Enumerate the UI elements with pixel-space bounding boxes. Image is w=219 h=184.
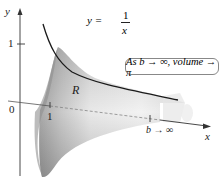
limit-label: b → ∞ [146, 125, 173, 135]
x-tick-label: 1 [47, 111, 53, 122]
y-axis-label: y [5, 6, 10, 17]
gabriels-horn-diagram: y 1 0 1 x R b → ∞ y = 1 x As b → ∞, volu… [0, 0, 219, 184]
origin-label: 0 [9, 104, 15, 115]
y-tick-label: 1 [8, 38, 14, 49]
horn-figure [0, 0, 219, 184]
x-axis-label: x [205, 131, 210, 142]
region-label: R [72, 84, 79, 96]
volume-callout: As b → ∞, volume → π [125, 58, 219, 75]
